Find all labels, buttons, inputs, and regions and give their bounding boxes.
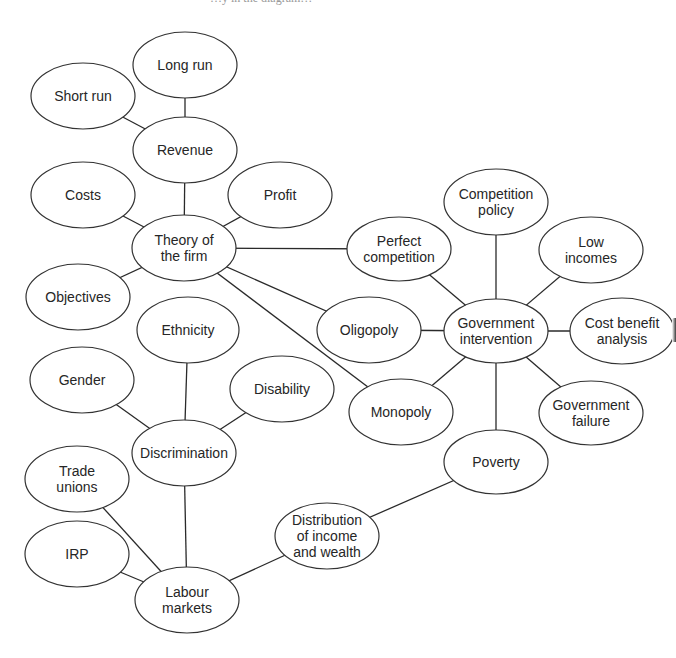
nodes-layer: Long runShort runRevenueCostsProfitTheor… xyxy=(25,32,674,633)
node-label: Long run xyxy=(157,57,212,73)
node-label: Gender xyxy=(59,372,106,388)
node-label: Disability xyxy=(254,381,310,397)
node-revenue: Revenue xyxy=(133,117,237,183)
node-label: and wealth xyxy=(293,544,361,560)
node-costs: Costs xyxy=(31,162,135,228)
node-labour-markets: Labourmarkets xyxy=(135,567,239,633)
node-label: competition xyxy=(363,249,435,265)
node-label: Costs xyxy=(65,187,101,203)
node-label: policy xyxy=(478,202,514,218)
node-label: analysis xyxy=(597,331,648,347)
node-label: Poverty xyxy=(472,454,519,470)
node-label: Discrimination xyxy=(140,445,228,461)
concept-map: Long runShort runRevenueCostsProfitTheor… xyxy=(0,0,676,658)
node-competition-policy: Competitionpolicy xyxy=(444,169,548,235)
node-gender: Gender xyxy=(30,347,134,413)
node-label: failure xyxy=(572,413,610,429)
node-label: Distribution xyxy=(292,512,362,528)
node-label: unions xyxy=(56,479,97,495)
node-label: IRP xyxy=(65,546,88,562)
page-edge-shadow xyxy=(672,318,676,342)
node-short-run: Short run xyxy=(31,63,135,129)
node-theory-of-the-firm: Theory ofthe firm xyxy=(132,215,236,281)
node-ethnicity: Ethnicity xyxy=(137,297,239,363)
node-label: intervention xyxy=(460,331,532,347)
node-trade-unions: Tradeunions xyxy=(25,446,129,512)
node-label: Ethnicity xyxy=(162,322,215,338)
node-label: Objectives xyxy=(45,289,110,305)
node-label: Government xyxy=(457,315,534,331)
node-label: Competition xyxy=(459,186,534,202)
node-poverty: Poverty xyxy=(444,430,548,494)
node-label: markets xyxy=(162,600,212,616)
node-label: the firm xyxy=(161,248,208,264)
node-profit: Profit xyxy=(228,162,332,228)
node-monopoly: Monopoly xyxy=(349,379,453,445)
node-label: Labour xyxy=(165,584,209,600)
node-label: Theory of xyxy=(154,232,213,248)
node-label: Low xyxy=(578,234,605,250)
node-perfect-competition: Perfectcompetition xyxy=(347,217,451,281)
node-label: Perfect xyxy=(377,233,421,249)
node-label: Oligopoly xyxy=(340,322,398,338)
node-label: incomes xyxy=(565,250,617,266)
node-long-run: Long run xyxy=(133,32,237,98)
node-low-incomes: Lowincomes xyxy=(539,217,643,283)
node-oligopoly: Oligopoly xyxy=(317,297,421,363)
node-objectives: Objectives xyxy=(26,264,130,330)
node-cost-benefit-analysis: Cost benefitanalysis xyxy=(570,298,674,364)
node-discrimination: Discrimination xyxy=(132,420,236,486)
node-label: Profit xyxy=(264,187,297,203)
node-government-failure: Governmentfailure xyxy=(539,381,643,445)
node-government-intervention: Governmentintervention xyxy=(444,299,548,363)
node-label: Trade xyxy=(59,463,95,479)
node-label: Monopoly xyxy=(371,404,432,420)
node-label: Cost benefit xyxy=(585,315,660,331)
node-label: Revenue xyxy=(157,142,213,158)
node-distribution-of-income-and-wealth: Distributionof incomeand wealth xyxy=(275,503,379,569)
node-label: Short run xyxy=(54,88,112,104)
node-label: of income xyxy=(297,528,358,544)
node-disability: Disability xyxy=(230,356,334,422)
node-irp: IRP xyxy=(25,521,129,587)
node-label: Government xyxy=(552,397,629,413)
